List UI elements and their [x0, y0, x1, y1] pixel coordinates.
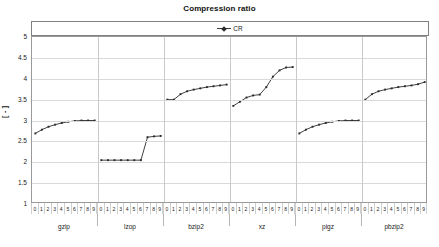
- x-tick-lzop-5: 5: [130, 203, 137, 214]
- data-point-lzop-3: [120, 159, 122, 161]
- x-tick-pigz-7: 7: [341, 203, 348, 214]
- x-tick-lzop-1: 1: [104, 203, 111, 214]
- y-tick-1.5: 1.5: [0, 179, 27, 186]
- data-point-xz-6: [272, 76, 274, 78]
- x-tick-pigz-8: 8: [348, 203, 355, 214]
- data-point-xz-0: [232, 105, 234, 107]
- x-tick-pigz-4: 4: [321, 203, 328, 214]
- data-point-xz-2: [246, 97, 248, 99]
- x-tick-lzop-8: 8: [150, 203, 157, 214]
- x-group-divider: [97, 214, 98, 226]
- x-tick-pigz-6: 6: [335, 203, 342, 214]
- data-point-bzip2-4: [193, 89, 195, 91]
- x-tick-pbzip2-4: 4: [387, 203, 394, 214]
- plot-area: [31, 36, 427, 203]
- x-group-label-gzip: gzip: [31, 214, 97, 236]
- data-point-pbzip2-2: [378, 90, 380, 92]
- y-tick-4: 4: [0, 74, 27, 81]
- data-point-xz-8: [285, 67, 287, 69]
- series-line-gzip: [35, 121, 94, 134]
- x-group-divider: [295, 214, 296, 226]
- data-point-pbzip2-4: [391, 87, 393, 89]
- data-point-pigz-0: [298, 132, 300, 134]
- group-separator: [98, 37, 99, 202]
- data-point-bzip2-7: [213, 85, 215, 87]
- x-tick-xz-0: 0: [229, 203, 236, 214]
- x-tick-xz-8: 8: [282, 203, 289, 214]
- data-point-pbzip2-8: [417, 83, 419, 85]
- data-point-pbzip2-5: [397, 86, 399, 88]
- x-tick-bzip2-8: 8: [216, 203, 223, 214]
- x-tick-xz-5: 5: [262, 203, 269, 214]
- x-tick-pigz-3: 3: [315, 203, 322, 214]
- y-axis-tick-labels: 54.543.532.521.51: [0, 30, 27, 210]
- x-tick-pigz-5: 5: [328, 203, 335, 214]
- x-axis: 0123456789012345678901234567890123456789…: [31, 203, 427, 247]
- x-tick-pbzip2-1: 1: [368, 203, 375, 214]
- x-tick-bzip2-4: 4: [189, 203, 196, 214]
- x-group-divider: [229, 214, 230, 226]
- gridline-h: [32, 79, 426, 80]
- chart-title: Compression ratio: [0, 4, 439, 13]
- data-point-lzop-8: [153, 135, 155, 137]
- x-tick-bzip2-1: 1: [170, 203, 177, 214]
- x-tick-pbzip2-7: 7: [407, 203, 414, 214]
- x-group-label-bzip2: bzip2: [163, 214, 229, 236]
- x-tick-pbzip2-8: 8: [414, 203, 421, 214]
- data-point-lzop-7: [147, 136, 149, 138]
- x-tick-gzip-2: 2: [44, 203, 51, 214]
- x-tick-bzip2-3: 3: [183, 203, 190, 214]
- compression-ratio-chart: Compression ratio CR 54.543.532.521.51 […: [0, 0, 439, 247]
- x-tick-pigz-1: 1: [302, 203, 309, 214]
- x-tick-pbzip2-0: 0: [361, 203, 368, 214]
- x-tick-lzop-6: 6: [137, 203, 144, 214]
- x-tick-lzop-4: 4: [123, 203, 130, 214]
- data-point-lzop-4: [127, 159, 129, 161]
- group-separator: [362, 37, 363, 202]
- data-point-xz-5: [265, 86, 267, 88]
- group-separator: [296, 37, 297, 202]
- data-point-gzip-2: [48, 126, 50, 128]
- x-tick-gzip-5: 5: [64, 203, 71, 214]
- y-tick-2: 2: [0, 158, 27, 165]
- data-point-bzip2-8: [219, 84, 221, 86]
- data-point-bzip2-6: [206, 86, 208, 88]
- data-point-gzip-0: [34, 132, 36, 134]
- gridline-h: [32, 162, 426, 163]
- gridline-h: [32, 58, 426, 59]
- x-tick-xz-4: 4: [255, 203, 262, 214]
- x-tick-gzip-4: 4: [57, 203, 64, 214]
- data-point-pigz-1: [305, 129, 307, 131]
- x-tick-lzop-9: 9: [156, 203, 163, 214]
- x-tick-gzip-1: 1: [38, 203, 45, 214]
- x-tick-gzip-6: 6: [71, 203, 78, 214]
- data-point-pbzip2-1: [371, 93, 373, 95]
- data-point-xz-4: [259, 94, 261, 96]
- data-point-xz-1: [239, 101, 241, 103]
- y-tick-4.5: 4.5: [0, 53, 27, 60]
- x-tick-bzip2-5: 5: [196, 203, 203, 214]
- data-point-bzip2-2: [180, 93, 182, 95]
- gridline-h: [32, 141, 426, 142]
- x-tick-gzip-7: 7: [77, 203, 84, 214]
- x-tick-pbzip2-6: 6: [401, 203, 408, 214]
- data-point-gzip-4: [61, 122, 63, 124]
- gridline-h: [32, 121, 426, 122]
- data-point-xz-3: [252, 95, 254, 97]
- y-tick-3.5: 3.5: [0, 95, 27, 102]
- x-group-label-xz: xz: [229, 214, 295, 236]
- data-point-bzip2-3: [186, 90, 188, 92]
- data-point-lzop-6: [140, 159, 142, 161]
- x-group-divider: [361, 214, 362, 226]
- x-group-label-pbzip2: pbzip2: [361, 214, 427, 236]
- x-tick-xz-1: 1: [236, 203, 243, 214]
- x-tick-xz-9: 9: [288, 203, 295, 214]
- x-tick-pigz-9: 9: [354, 203, 361, 214]
- data-point-gzip-1: [41, 129, 43, 131]
- data-point-xz-9: [292, 66, 294, 68]
- y-axis-title: [ - ]: [1, 106, 8, 118]
- x-tick-bzip2-0: 0: [163, 203, 170, 214]
- legend-label: CR: [233, 25, 242, 32]
- series-line-lzop: [101, 136, 160, 160]
- x-group-label-pigz: pigz: [295, 214, 361, 236]
